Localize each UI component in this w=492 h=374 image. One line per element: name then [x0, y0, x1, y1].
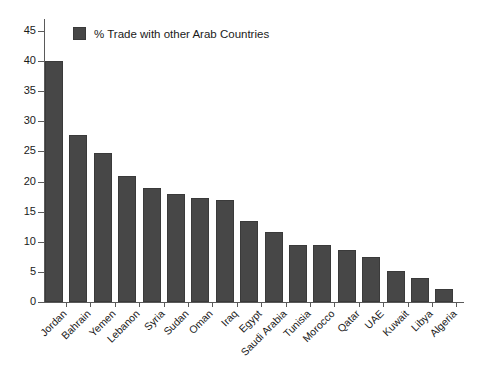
y-axis-tick: [38, 182, 44, 183]
y-axis-tick: [38, 61, 44, 62]
bar-syria: [143, 188, 161, 302]
bar-uae: [362, 257, 380, 302]
y-axis-tick: [38, 212, 44, 213]
x-axis-tick: [90, 303, 91, 307]
x-axis-tick: [408, 303, 409, 307]
bar-algeria: [435, 289, 453, 302]
bar-kuwait: [387, 271, 405, 302]
bar-qatar: [338, 250, 356, 302]
x-axis-label: Oman: [187, 308, 215, 336]
bar-egypt: [240, 221, 258, 302]
bar-sudan: [167, 194, 185, 302]
bar-bahrain: [69, 135, 87, 302]
y-axis-tick: [38, 302, 44, 303]
y-axis-tick: [38, 151, 44, 152]
x-axis-tick: [334, 303, 335, 307]
x-axis-tick: [237, 303, 238, 307]
bar-saudi-arabia: [265, 232, 283, 302]
x-axis-tick: [456, 303, 457, 307]
bar-iraq: [216, 200, 234, 302]
y-axis-tick: [38, 242, 44, 243]
bar-lebanon: [118, 176, 136, 302]
bar-yemen: [94, 153, 112, 302]
bar-oman: [191, 198, 209, 302]
bar-morocco: [313, 245, 331, 302]
bars-group: JordanBahrainYemenLebanonSyriaSudanOmanI…: [0, 0, 492, 374]
x-axis-tick: [212, 303, 213, 307]
x-axis-label: Sudan: [162, 308, 191, 337]
x-axis-tick: [359, 303, 360, 307]
bar-jordan: [45, 61, 63, 302]
x-axis-label: Qatar: [335, 308, 361, 334]
x-axis-tick: [66, 303, 67, 307]
bar-chart: % Trade with other Arab Countries 051015…: [0, 0, 492, 374]
x-axis-tick: [139, 303, 140, 307]
x-axis-tick: [310, 303, 311, 307]
x-axis-tick: [286, 303, 287, 307]
x-axis-tick: [261, 303, 262, 307]
x-axis-tick: [115, 303, 116, 307]
bar-libya: [411, 278, 429, 302]
x-axis-label: Algeria: [428, 308, 459, 339]
y-axis-tick: [38, 272, 44, 273]
bar-tunisia: [289, 245, 307, 302]
y-axis-tick: [38, 31, 44, 32]
x-axis-label: Kuwait: [380, 308, 410, 338]
y-axis-tick: [38, 121, 44, 122]
x-axis-tick: [383, 303, 384, 307]
y-axis-tick: [38, 91, 44, 92]
x-axis-tick: [164, 303, 165, 307]
x-axis-tick: [432, 303, 433, 307]
x-axis-tick: [188, 303, 189, 307]
